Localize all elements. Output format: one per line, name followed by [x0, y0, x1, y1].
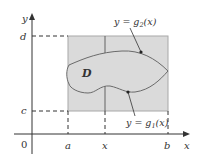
lower-curve-label: y = g1(x) — [125, 117, 169, 130]
lower-curve-label-prefix: y = g — [125, 117, 151, 128]
upper-curve-label-suffix: (x) — [144, 16, 157, 27]
region-label: D — [81, 67, 92, 80]
x-axis-arrow-icon — [183, 131, 190, 137]
a-tick-label: a — [65, 140, 71, 151]
origin-label: 0 — [21, 139, 27, 150]
upper-curve-label: y = g2(x) — [113, 16, 157, 29]
lower-curve-label-suffix: (x) — [156, 117, 169, 128]
upper-curve-dot — [139, 50, 142, 53]
lower-curve-dot — [126, 90, 129, 93]
region-diagram: y x 0 d c a x b D y = g2(x) y = g1(x) — [0, 0, 197, 161]
y-axis-label: y — [21, 13, 28, 24]
y-axis-arrow-icon — [29, 13, 35, 20]
b-tick-label: b — [164, 140, 170, 151]
x-axis-label: x — [184, 140, 190, 151]
x-tick-label: x — [102, 140, 108, 151]
c-tick-label: c — [21, 105, 27, 116]
upper-curve-label-prefix: y = g — [113, 16, 139, 27]
d-tick-label: d — [20, 31, 26, 42]
